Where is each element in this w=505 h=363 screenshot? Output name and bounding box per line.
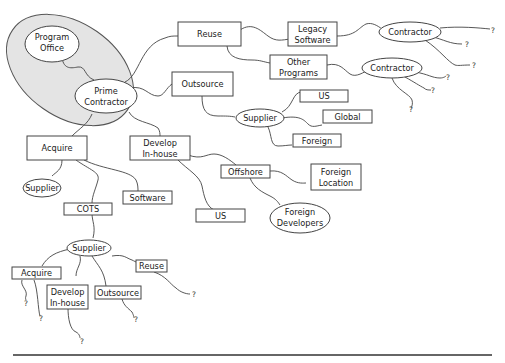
node-us-1: US [300, 90, 348, 102]
foreign-location-label-1: Foreign [321, 167, 351, 177]
node-software: Software [123, 191, 172, 204]
acquire-label: Acquire [42, 143, 73, 153]
reuse-2-label: Reuse [139, 261, 164, 271]
acquire-2-label: Acquire [21, 268, 52, 278]
node-acquire-2: Acquire [12, 267, 61, 279]
node-contractor-2: Contractor [362, 58, 422, 78]
outsource-2-label: Outsource [97, 288, 139, 298]
node-supplier-cots: Supplier [67, 240, 111, 256]
contractor-2-label: Contractor [370, 63, 414, 73]
outsource-label: Outsource [181, 79, 223, 89]
node-outsource: Outsource [172, 72, 233, 96]
foreign-location-label-2: Location [319, 178, 354, 188]
develop-inhouse-label-2: In-house [142, 149, 177, 159]
node-develop-inhouse: Develop In-house [130, 136, 190, 160]
develop-inhouse-2-label-2: In-house [50, 298, 85, 308]
unknown-marker: ? [465, 40, 469, 49]
offshore-label: Offshore [228, 167, 263, 177]
node-legacy-software: Legacy Software [288, 22, 337, 46]
supplier-acquire-label: Supplier [25, 183, 59, 193]
develop-inhouse-label-1: Develop [143, 138, 177, 148]
node-acquire: Acquire [27, 136, 87, 160]
foreign-label: Foreign [302, 136, 332, 146]
unknown-marker: ? [491, 26, 495, 35]
node-other-programs: Other Programs [270, 55, 327, 79]
legacy-software-label-1: Legacy [298, 24, 327, 34]
cots-label: COTS [77, 204, 99, 214]
node-us-2: US [196, 209, 245, 222]
program-office-label-1: Program [35, 32, 70, 42]
node-foreign-location: Foreign Location [311, 164, 361, 190]
supply-chain-diagram: Program Office Prime Contractor Contract… [0, 0, 505, 363]
node-develop-inhouse-2: Develop In-house [47, 285, 88, 309]
unknown-marker: ? [446, 73, 450, 82]
unknown-marker: ? [409, 105, 413, 114]
node-offshore: Offshore [221, 165, 270, 178]
unknown-marker: ? [431, 86, 435, 95]
other-programs-label-2: Programs [279, 68, 318, 78]
us-2-label: US [215, 211, 226, 221]
supplier-outsource-label: Supplier [243, 113, 277, 123]
prime-contractor-label-2: Contractor [84, 97, 128, 107]
unknown-marker: ? [80, 337, 84, 346]
node-supplier-acquire: Supplier [23, 179, 61, 197]
node-prime-contractor: Prime Contractor [75, 79, 137, 113]
node-foreign: Foreign [293, 134, 341, 147]
supplier-cots-label: Supplier [72, 243, 106, 253]
node-supplier-outsource: Supplier [236, 109, 284, 127]
legacy-software-label-2: Software [294, 35, 330, 45]
program-office-label-2: Office [40, 43, 64, 53]
global-label: Global [334, 112, 360, 122]
unknown-marker: ? [39, 314, 43, 323]
reuse-label: Reuse [197, 29, 222, 39]
unknown-marker: ? [134, 315, 138, 324]
us-1-label: US [318, 91, 329, 101]
unknown-marker: ? [472, 61, 476, 70]
unknown-marker: ? [192, 290, 196, 299]
node-program-office: Program Office [25, 26, 79, 62]
node-reuse: Reuse [178, 22, 241, 46]
foreign-developers-label-2: Developers [277, 218, 323, 228]
contractor-1-label: Contractor [388, 27, 432, 37]
node-global: Global [323, 110, 372, 123]
develop-inhouse-2-label-1: Develop [51, 287, 85, 297]
unknown-marker: ? [24, 299, 28, 308]
node-outsource-2: Outsource [95, 286, 141, 299]
node-foreign-developers: Foreign Developers [270, 203, 330, 233]
node-contractor-1: Contractor [379, 22, 441, 42]
prime-contractor-label-1: Prime [94, 86, 117, 96]
node-cots: COTS [64, 203, 112, 215]
node-reuse-2: Reuse [136, 260, 167, 272]
software-label: Software [129, 193, 165, 203]
foreign-developers-label-1: Foreign [285, 207, 315, 217]
other-programs-label-1: Other [287, 57, 311, 67]
program-group-ellipse [0, 0, 154, 149]
